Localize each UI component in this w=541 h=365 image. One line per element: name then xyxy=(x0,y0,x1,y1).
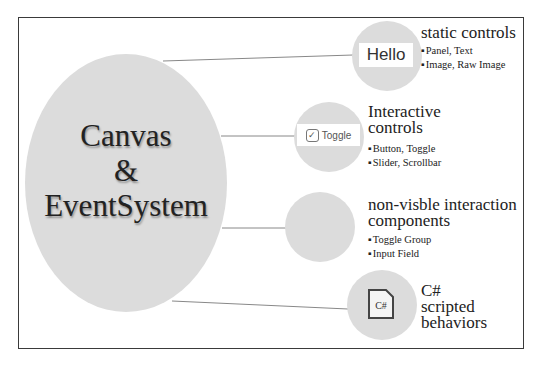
central-line-3: EventSystem xyxy=(25,188,227,223)
toggle-icon: ✓ Toggle xyxy=(297,124,360,146)
bullet-item: Slider, Scrollbar xyxy=(368,156,441,170)
bullet-item: Input Field xyxy=(368,247,431,261)
non-visible-components-title: non-visble interaction components xyxy=(368,197,517,229)
central-line-2: & xyxy=(25,153,227,188)
bullet-item: Panel, Text xyxy=(421,44,505,58)
central-line-1: Canvas xyxy=(25,118,227,153)
title-line: behaviors xyxy=(421,315,487,331)
interactive-controls-title: Interactive controls xyxy=(368,104,441,136)
static-controls-bullets: Panel, Text Image, Raw Image xyxy=(421,44,505,72)
hello-text-icon: Hello xyxy=(359,43,413,67)
csharp-file-icon: C# xyxy=(367,288,395,320)
checkbox-icon: ✓ xyxy=(306,129,319,142)
title-line: controls xyxy=(368,120,441,136)
csharp-title: C# scripted behaviors xyxy=(421,283,487,331)
bullet-item: Image, Raw Image xyxy=(421,58,505,72)
static-controls-title: static controls xyxy=(421,25,516,41)
svg-text:C#: C# xyxy=(375,300,387,311)
toggle-label: Toggle xyxy=(322,130,351,141)
non-visible-components-bullets: Toggle Group Input Field xyxy=(368,233,431,261)
title-line: components xyxy=(368,213,517,229)
non-visible-components-circle xyxy=(285,192,355,262)
interactive-controls-bullets: Button, Toggle Slider, Scrollbar xyxy=(368,142,441,170)
bullet-item: Button, Toggle xyxy=(368,142,441,156)
central-label: Canvas & EventSystem xyxy=(25,118,227,223)
bullet-item: Toggle Group xyxy=(368,233,431,247)
